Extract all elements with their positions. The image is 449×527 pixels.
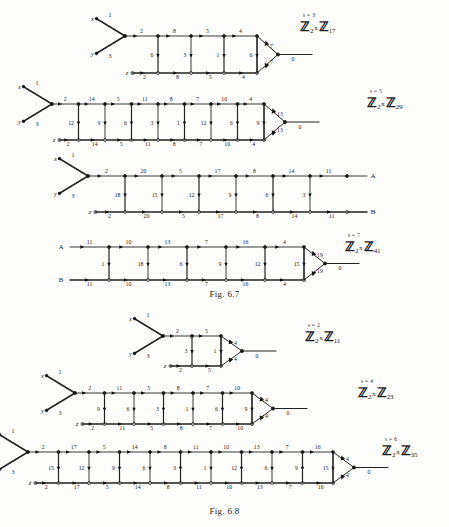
s3-s-value: s = 3 <box>300 12 335 18</box>
s7b-top-arrow-1 <box>119 245 123 248</box>
s5-top-label-3: 11 <box>142 96 148 102</box>
s6-group-annotation: s = 6ℤ2xℤ35 <box>382 436 417 459</box>
s4-top-label-1: 11 <box>116 385 122 391</box>
s5-top-label-2: 5 <box>117 96 120 102</box>
s7b-bottom-label-4: 16 <box>243 281 249 287</box>
figure-caption-6-8: Fig. 6.8 <box>0 506 449 516</box>
s7a-input-y-edge <box>60 176 88 193</box>
s7b-top-label-1: 10 <box>126 239 132 245</box>
s6-input-y-weight: 3 <box>12 469 15 475</box>
s3-input-x-edge <box>97 19 125 36</box>
s5-rung-arrow-1 <box>103 121 106 125</box>
s2-input-y-weight: 3 <box>147 353 150 359</box>
s3-triangle-lower-arrow <box>265 63 270 68</box>
s3-rung-arrow-1 <box>189 54 192 58</box>
s4-bottom-label-5: 10 <box>237 425 243 431</box>
s7b-top-label-2: 13 <box>165 239 171 245</box>
s3-top-arrow-3 <box>232 34 236 37</box>
s7a-rung-label-0: 18 <box>115 192 121 198</box>
s6-top-label-9: 16 <box>315 444 321 450</box>
s5-input-y-weight: 3 <box>36 121 39 127</box>
s5-rung-arrow-4 <box>183 121 186 125</box>
s2-input-x-label: x <box>128 315 132 322</box>
s6-bottom-label-5: 11 <box>196 484 202 490</box>
s7a-rung-label-4: 6 <box>266 192 269 198</box>
s3-rung-arrow-0 <box>156 54 159 58</box>
s7a-top-arrow-3 <box>209 174 213 177</box>
s5-bottom-label-6: 10 <box>224 141 230 147</box>
s5-group-expression: ℤ2xℤ29 <box>367 96 402 110</box>
s5-rung-label-6: 6 <box>230 120 233 126</box>
s4-rung-label-5: 9 <box>245 406 248 412</box>
s7a-top-arrow-1 <box>135 174 139 177</box>
s2-input-x-weight: 1 <box>147 312 150 318</box>
s7a-rung-arrow-0 <box>123 193 126 197</box>
s7b-input-B-label: B <box>59 276 64 284</box>
s5-input-x-weight: 1 <box>36 80 39 86</box>
s7a-bottom-label-5: 14 <box>292 213 298 219</box>
s6-top-arrow-8 <box>279 450 283 453</box>
s2-rung-arrow-0 <box>190 350 193 354</box>
s7a-rung-label-2: 12 <box>189 192 195 198</box>
s3-rung-label-3: 6 <box>250 52 253 58</box>
s6-rung-label-6: 12 <box>231 465 237 471</box>
s7b-top-arrow-5 <box>275 245 279 248</box>
s6-top-label-5: 11 <box>193 444 199 450</box>
s2-input-x-edge <box>135 319 163 336</box>
s6-input-y-edge <box>0 452 28 469</box>
s7a-bottom-label-2: 5 <box>182 213 185 219</box>
s6-rung-label-8: 9 <box>295 465 298 471</box>
s3-input-y-terminal <box>95 52 98 55</box>
s3-rung-arrow-2 <box>222 54 225 58</box>
s3-triangle-upper-edge <box>257 36 278 55</box>
s4-input-x-weight: 1 <box>59 369 62 375</box>
s2-input-y-terminal <box>133 352 136 355</box>
s4-input-z-label: z <box>75 420 79 427</box>
s7a-top-arrow-2 <box>172 174 176 177</box>
s6-top-arrow-2 <box>96 450 100 453</box>
s6-rung-label-3: 6 <box>143 465 146 471</box>
s5-rung-label-1: 9 <box>98 120 101 126</box>
s2-top-arrow-1 <box>199 334 203 337</box>
s6-bottom-label-9: 16 <box>318 484 324 490</box>
s4-input-y-label: y <box>40 407 44 414</box>
s4-rung-label-4: 6 <box>215 406 218 412</box>
s2-input-z-label: z <box>163 362 167 369</box>
s6-rung-arrow-6 <box>240 467 243 471</box>
s7b-rung-arrow-0 <box>107 263 110 267</box>
s5-output-label: 0 <box>299 124 302 130</box>
s5-input-y-terminal <box>22 120 25 123</box>
s7b-bottom-label-2: 13 <box>165 281 171 287</box>
s7b-output-label: 0 <box>339 265 342 271</box>
s5-top-label-0: 2 <box>64 96 67 102</box>
s6-top-arrow-4 <box>157 450 161 453</box>
s2-output-label: 0 <box>256 353 259 359</box>
s6-input-y-terminal <box>0 468 1 471</box>
s7a-input-z-label: z <box>88 208 92 215</box>
s5-rung-label-7: 9 <box>257 120 260 126</box>
s6-bottom-label-6: 10 <box>226 484 232 490</box>
s4-rung-arrow-0 <box>103 408 106 412</box>
s6-group-expression: ℤ2xℤ35 <box>382 444 417 458</box>
s6-rung-label-4: 3 <box>173 465 176 471</box>
s5-input-x-terminal <box>22 85 25 88</box>
s2-top-label-0: 2 <box>176 328 179 334</box>
s7b-top-label-4: 16 <box>243 239 249 245</box>
figure-canvas: x1y3z228855446316770x1y3z221414551111887… <box>0 0 449 527</box>
s7a-bottom-label-6: 11 <box>329 213 335 219</box>
s7a-top-label-0: 2 <box>105 168 108 174</box>
s6-top-label-3: 14 <box>132 444 138 450</box>
s5-triangle-upper-label: 13 <box>277 111 283 117</box>
s6-rung-arrow-7 <box>270 467 273 471</box>
s3-input-x-weight: 1 <box>109 12 112 18</box>
s3-top-arrow-2 <box>199 34 203 37</box>
s4-top-label-3: 8 <box>177 385 180 391</box>
s3-input-y-edge <box>97 36 125 53</box>
s5-top-arrow-3 <box>138 102 142 105</box>
s3-triangle-lower-label: 7 <box>270 59 273 65</box>
s7a-top-label-6: 11 <box>326 168 332 174</box>
s5-rung-label-3: 3 <box>151 120 154 126</box>
s4-top-arrow-2 <box>141 391 145 394</box>
s5-rung-label-0: 12 <box>68 120 74 126</box>
s3-rung-label-1: 3 <box>184 52 187 58</box>
